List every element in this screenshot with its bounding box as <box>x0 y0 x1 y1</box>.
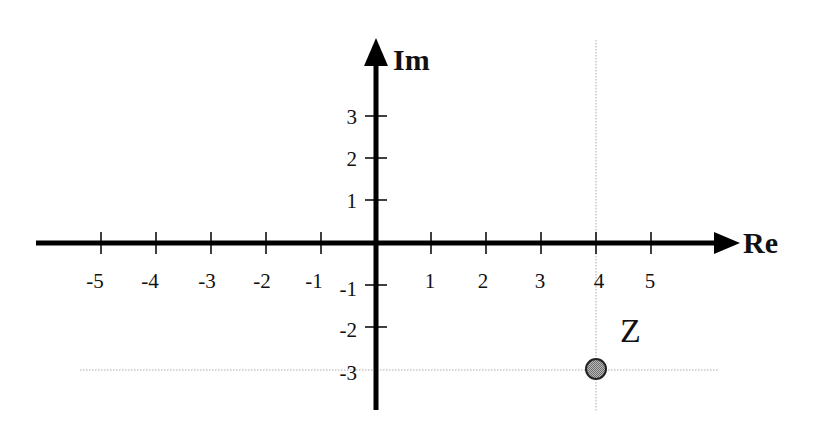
point-z-marker <box>586 359 606 379</box>
tick-label-im-neg1: -1 <box>340 277 358 301</box>
real-tick-labels: -5 -4 -3 -2 -1 1 2 3 4 5 <box>86 269 655 293</box>
complex-plane-diagram: -5 -4 -3 -2 -1 1 2 3 4 5 3 2 1 -1 -2 -3 … <box>0 0 822 434</box>
tick-label-re-3: 3 <box>535 269 546 293</box>
tick-label-im-neg3: -3 <box>340 361 358 385</box>
tick-label-re-2: 2 <box>478 269 489 293</box>
tick-label-re-4: 4 <box>594 269 605 293</box>
tick-label-re-5: 5 <box>645 269 656 293</box>
tick-label-re-neg1: -1 <box>305 269 323 293</box>
imaginary-axis-arrow-icon <box>364 38 388 66</box>
imaginary-axis-label: Im <box>393 43 430 76</box>
real-axis-arrow-icon <box>714 232 740 254</box>
real-axis-label: Re <box>743 226 778 259</box>
point-z-label: Z <box>620 312 641 349</box>
tick-label-re-1: 1 <box>425 269 436 293</box>
tick-label-im-1: 1 <box>347 189 358 213</box>
tick-label-im-neg2: -2 <box>340 318 358 342</box>
tick-label-re-neg3: -3 <box>198 269 216 293</box>
tick-label-im-3: 3 <box>347 105 358 129</box>
tick-label-re-neg2: -2 <box>253 269 271 293</box>
tick-label-re-neg4: -4 <box>141 269 159 293</box>
tick-label-re-neg5: -5 <box>86 269 104 293</box>
tick-label-im-2: 2 <box>347 147 358 171</box>
